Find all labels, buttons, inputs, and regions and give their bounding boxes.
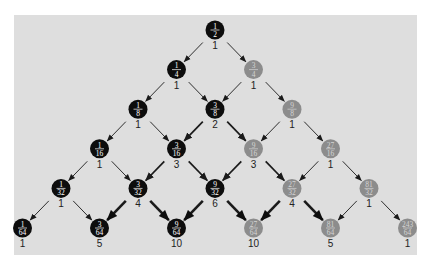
fraction-denominator: 32: [211, 188, 219, 197]
tree-node: 3163: [167, 139, 186, 170]
path-count-label: 1: [328, 159, 334, 170]
edge-arrow-0-0-left: [184, 43, 203, 62]
path-count-label: 1: [405, 238, 411, 249]
path-count-label: 1: [135, 119, 141, 130]
tree-node: 81645: [321, 219, 340, 250]
fraction-denominator: 2: [213, 30, 217, 39]
fraction-denominator: 64: [173, 228, 181, 237]
path-count-label: 2: [212, 119, 218, 130]
fraction-denominator: 64: [250, 228, 258, 237]
tree-node: 9326: [206, 179, 225, 210]
path-count-label: 5: [328, 238, 334, 249]
path-count-label: 1: [20, 238, 26, 249]
path-count-label: 4: [289, 198, 295, 209]
edge-arrow-1-1-left: [223, 82, 242, 101]
fraction-denominator: 4: [175, 70, 179, 79]
tree-node: 3645: [90, 219, 109, 250]
tree-node: 382: [206, 100, 225, 131]
tree-node: 181: [129, 100, 148, 131]
edge-arrow-3-0-right: [112, 161, 131, 180]
tree-node: 276410: [244, 219, 263, 250]
edge-arrow-1-0-left: [146, 82, 165, 101]
edge-arrow-1-0-right: [189, 82, 208, 101]
tree-node: 243641: [398, 219, 417, 250]
fraction-denominator: 8: [290, 109, 294, 118]
fraction-denominator: 16: [173, 149, 181, 158]
tree-node: 96410: [167, 219, 186, 250]
fraction-denominator: 64: [404, 228, 412, 237]
tree-node: 81321: [360, 179, 379, 210]
fraction-denominator: 32: [288, 188, 296, 197]
path-count-label: 4: [135, 198, 141, 209]
edge-arrow-4-0-right: [73, 201, 92, 220]
tree-node: 1641: [13, 219, 32, 250]
path-count-label: 5: [97, 238, 103, 249]
tree-node: 341: [244, 60, 263, 91]
path-count-label: 1: [212, 40, 218, 51]
path-count-label: 1: [289, 119, 295, 130]
fraction-denominator: 64: [19, 228, 27, 237]
edge-arrow-0-0-right: [227, 43, 246, 62]
fraction-denominator: 16: [327, 149, 335, 158]
fraction-denominator: 64: [327, 228, 335, 237]
fraction-denominator: 32: [365, 188, 373, 197]
tree-node: 121: [206, 21, 225, 52]
path-count-label: 3: [251, 159, 257, 170]
path-count-label: 1: [97, 159, 103, 170]
edge-arrow-2-2-right: [304, 122, 323, 141]
edge-arrow-3-1-left: [146, 161, 165, 180]
edge-arrow-4-1-right: [150, 201, 169, 220]
fraction-denominator: 32: [134, 188, 142, 197]
edge-arrow-3-3-right: [343, 161, 362, 180]
edge-arrow-2-1-left: [184, 122, 203, 141]
fraction-denominator: 4: [252, 70, 256, 79]
edge-arrow-3-3-left: [300, 161, 319, 180]
edge-arrow-4-4-right: [381, 201, 400, 220]
fraction-denominator: 8: [213, 109, 217, 118]
edge-arrow-4-4-left: [338, 201, 357, 220]
path-count-label: 10: [171, 238, 183, 249]
path-count-label: 1: [251, 80, 257, 91]
tree-node: 981: [283, 100, 302, 131]
tree-node: 27161: [321, 139, 340, 170]
tree-node: 1321: [52, 179, 71, 210]
edge-arrow-4-3-right: [304, 201, 323, 220]
edge-arrow-2-0-right: [150, 122, 169, 141]
edge-arrow-2-1-right: [227, 122, 246, 141]
edge-arrow-3-1-right: [189, 161, 208, 180]
nodes-layer: 1211413411813829811161316391632716113213…: [13, 21, 417, 250]
fraction-denominator: 32: [57, 188, 65, 197]
edge-arrow-2-0-left: [107, 122, 126, 141]
fraction-denominator: 64: [96, 228, 104, 237]
fraction-denominator: 16: [96, 149, 104, 158]
tree-node: 141: [167, 60, 186, 91]
edge-arrow-4-2-left: [184, 201, 203, 220]
path-count-label: 6: [212, 198, 218, 209]
edge-arrow-3-2-left: [223, 161, 242, 180]
tree-node: 27324: [283, 179, 302, 210]
edge-arrow-4-2-right: [227, 201, 246, 220]
edge-arrow-4-1-left: [107, 201, 126, 220]
path-count-label: 10: [248, 238, 260, 249]
path-count-label: 1: [366, 198, 372, 209]
tree-node: 1161: [90, 139, 109, 170]
tree-node: 3324: [129, 179, 148, 210]
edge-arrow-2-2-left: [261, 122, 280, 141]
fraction-denominator: 8: [136, 109, 140, 118]
fraction-denominator: 16: [250, 149, 258, 158]
edge-arrow-3-2-right: [266, 161, 285, 180]
path-count-label: 1: [174, 80, 180, 91]
edge-arrow-3-0-left: [69, 161, 88, 180]
edge-arrow-4-0-left: [30, 201, 49, 220]
path-count-label: 3: [174, 159, 180, 170]
edge-arrow-1-1-right: [266, 82, 285, 101]
edge-arrow-4-3-left: [261, 201, 280, 220]
path-count-label: 1: [58, 198, 64, 209]
tree-node: 9163: [244, 139, 263, 170]
probability-tree-diagram: 1211413411813829811161316391632716113213…: [0, 0, 428, 264]
